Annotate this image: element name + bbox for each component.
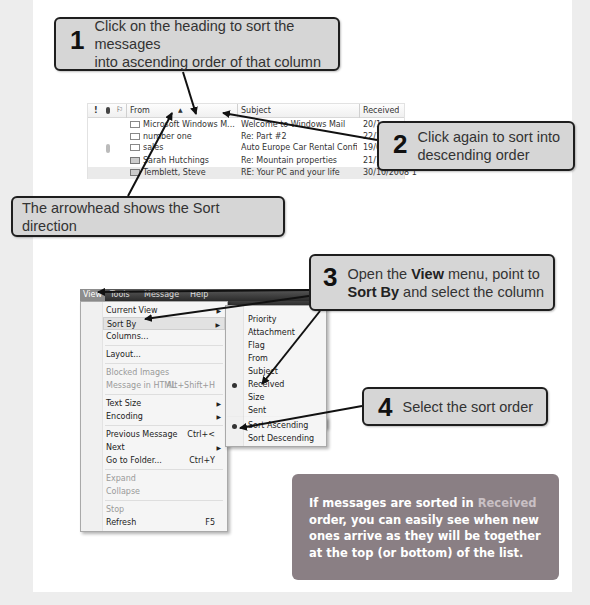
view-menu-dropdown: Current View▶ Sort By▶ Columns... Layout… <box>80 301 228 532</box>
menu-item-next[interactable]: Next▶ <box>103 441 225 454</box>
callout-step-4: 4 Select the sort order <box>362 387 548 426</box>
callout-step-2: 2 Click again to sort into descending or… <box>377 121 575 171</box>
menu-item-previous-message[interactable]: Previous MessageCtrl+< <box>103 428 225 441</box>
menu-view[interactable]: View <box>80 289 105 301</box>
message-row[interactable]: Microsoft Windows M... Welcome to Window… <box>88 119 404 131</box>
subject-column-header[interactable]: Subject <box>241 106 271 115</box>
radio-selected-icon <box>232 383 237 388</box>
tip-box: If messages are sorted in Received order… <box>292 474 559 580</box>
menu-item-expand: Expand <box>103 472 225 485</box>
paperclip-icon <box>106 144 110 153</box>
callout-text: Click again to sort into descending orde… <box>417 128 560 164</box>
step-number: 1 <box>70 27 84 53</box>
menu-item-message-in-html: Message in HTMLAlt+Shift+H <box>103 379 225 392</box>
menu-message[interactable]: Message <box>144 290 179 299</box>
attachment-column-header[interactable] <box>106 107 110 114</box>
menu-item-collapse: Collapse <box>103 485 225 498</box>
step-number: 2 <box>393 131 407 157</box>
envelope-icon <box>130 121 140 128</box>
sort-item-size[interactable]: Size <box>248 392 324 405</box>
sort-item-sent[interactable]: Sent <box>248 405 324 418</box>
submenu-arrow-icon: ▶ <box>216 397 221 410</box>
callout-arrowhead-note: The arrowhead shows the Sort direction <box>11 196 285 237</box>
callout-text: Click on the heading to sort the message… <box>94 17 328 71</box>
callout-text: Open the View menu, point to Sort By and… <box>347 265 544 301</box>
menu-item-current-view[interactable]: Current View▶ <box>103 304 225 317</box>
menu-item-columns[interactable]: Columns... <box>103 330 225 343</box>
menu-tools[interactable]: Tools <box>110 290 130 299</box>
menu-help[interactable]: Help <box>190 290 208 299</box>
sort-item-priority[interactable]: Priority <box>248 314 324 327</box>
sort-item-ascending[interactable]: Sort Ascending <box>248 420 324 433</box>
tip-highlight: Received <box>478 496 537 510</box>
received-column-header[interactable]: Received <box>363 106 399 115</box>
menu-item-encoding[interactable]: Encoding▶ <box>103 410 225 423</box>
message-list: ! ⚐ From ▲ Subject Received Microsoft Wi… <box>87 103 405 179</box>
menu-separator <box>105 394 223 395</box>
menu-item-text-size[interactable]: Text Size▶ <box>103 397 225 410</box>
submenu-arrow-icon: ▶ <box>216 441 221 454</box>
menu-item-refresh[interactable]: RefreshF5 <box>103 516 225 529</box>
callout-step-3: 3 Open the View menu, point to Sort By a… <box>309 254 555 311</box>
menu-item-stop: Stop <box>103 503 225 516</box>
menu-bar: View Tools Message Help <box>80 289 310 301</box>
sort-item-descending[interactable]: Sort Descending <box>248 433 324 446</box>
step-number: 4 <box>378 394 392 420</box>
submenu-arrow-icon: ▶ <box>216 410 221 423</box>
menu-separator <box>105 345 223 346</box>
column-header-row: ! ⚐ From ▲ Subject Received <box>88 104 404 118</box>
callout-step-1: 1 Click on the heading to sort the messa… <box>54 17 340 71</box>
submenu-arrow-icon: ▶ <box>216 304 221 317</box>
message-row-selected[interactable]: Temblett, Steve RE: Your PC and your lif… <box>88 167 404 179</box>
from-column-header[interactable]: From <box>130 106 150 115</box>
flag-column-header[interactable]: ⚐ <box>116 105 123 114</box>
sort-item-subject[interactable]: Subject <box>248 366 324 379</box>
menu-separator <box>105 469 223 470</box>
priority-column-header[interactable]: ! <box>94 106 98 115</box>
menu-separator <box>105 500 223 501</box>
menu-item-blocked-images: Blocked Images <box>103 366 225 379</box>
sort-order-submenu-part: Sort Ascending Sort Descending <box>225 417 327 447</box>
message-row[interactable]: sales Auto Europe Car Rental Confirmati.… <box>88 142 404 154</box>
sort-item-attachment[interactable]: Attachment <box>248 327 324 340</box>
sort-item-flag[interactable]: Flag <box>248 340 324 353</box>
step-number: 3 <box>323 264 337 290</box>
radio-selected-icon <box>232 424 237 429</box>
envelope-icon <box>130 144 140 151</box>
menu-item-sort-by[interactable]: Sort By▶ <box>103 317 225 330</box>
sort-item-from[interactable]: From <box>248 353 324 366</box>
menu-separator <box>105 363 223 364</box>
sort-item-received[interactable]: Received <box>248 379 324 392</box>
menu-item-layout[interactable]: Layout... <box>103 348 225 361</box>
sort-by-submenu: Priority Attachment Flag From Subject Re… <box>225 305 327 428</box>
message-row[interactable]: Sarah Hutchings Re: Mountain properties … <box>88 155 404 167</box>
open-envelope-icon <box>130 169 140 176</box>
envelope-icon <box>130 133 140 140</box>
sort-ascending-indicator-icon: ▲ <box>178 106 183 113</box>
open-envelope-icon <box>130 157 140 164</box>
menu-separator <box>105 425 223 426</box>
menu-item-go-to-folder[interactable]: Go to Folder...Ctrl+Y <box>103 454 225 467</box>
